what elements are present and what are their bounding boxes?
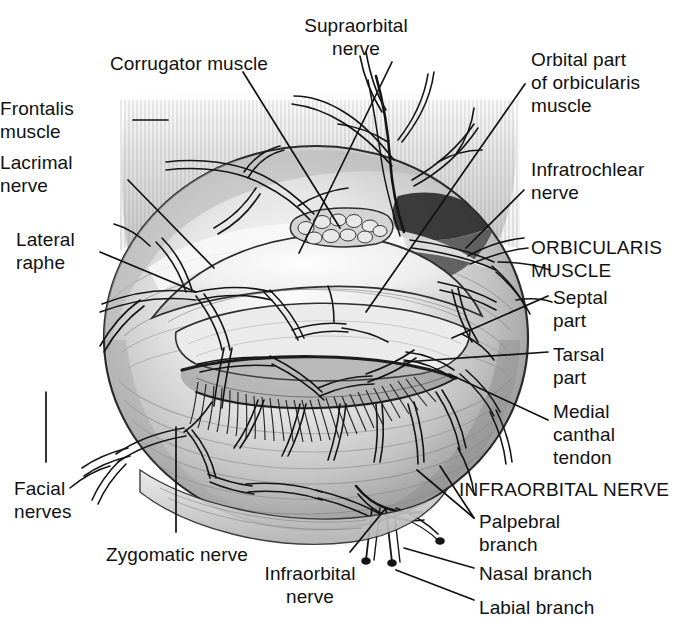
- label-facial-nerves: Facial nerves: [14, 477, 72, 523]
- label-labial-branch: Labial branch: [479, 596, 594, 619]
- label-lacrimal-nerve: Lacrimal nerve: [0, 151, 33, 197]
- label-infraorbital-nerve-caps: INFRAORBITAL NERVE: [459, 478, 669, 501]
- label-medial-canthal-tendon: Medial canthal tendon: [553, 400, 615, 469]
- label-frontalis-muscle: Frontalis muscle: [0, 97, 33, 143]
- label-orbital-part: Orbital part of orbicularis muscle: [531, 48, 640, 117]
- leader-labial: [396, 570, 474, 600]
- label-infraorbital-nerve: Infraorbital nerve: [220, 562, 400, 608]
- anatomical-figure: Supraorbital nerveCorrugator muscleOrbit…: [0, 0, 693, 643]
- label-septal-part: Septal part: [553, 286, 607, 332]
- label-supraorbital-nerve: Supraorbital nerve: [266, 14, 446, 60]
- label-nasal-branch: Nasal branch: [479, 562, 592, 585]
- label-infratrochlear-nerve: Infratrochlear nerve: [531, 158, 644, 204]
- label-lateral-raphe: Lateral raphe: [16, 228, 75, 274]
- label-palpebral-branch: Palpebral branch: [479, 510, 560, 556]
- label-tarsal-part: Tarsal part: [553, 343, 604, 389]
- leader-nasal: [404, 548, 474, 568]
- label-orbicularis-muscle: ORBICULARIS MUSCLE: [531, 236, 662, 282]
- label-corrugator-muscle: Corrugator muscle: [110, 52, 268, 75]
